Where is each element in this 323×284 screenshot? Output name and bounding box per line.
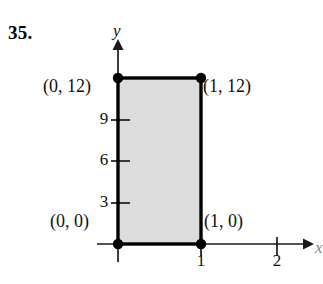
x-tick-label-2: 2: [269, 251, 285, 271]
y-tick-label-9: 9: [96, 109, 112, 129]
vertex-dot-1-0: [196, 239, 206, 249]
point-label-bottom-right: (1, 0): [204, 211, 243, 232]
y-tick-label-6: 6: [96, 150, 112, 170]
y-tick-label-3: 3: [96, 192, 112, 212]
coordinate-plot-graphic: [0, 0, 323, 284]
x-axis-arrowhead: [303, 239, 314, 250]
point-label-bottom-left: (0, 0): [50, 211, 89, 232]
point-label-top-left: (0, 12): [43, 76, 91, 97]
figure-canvas: 35. y x (0, 12) (1, 12) (0, 0) (1, 0) 9 …: [0, 0, 323, 284]
y-axis-label: y: [113, 21, 121, 41]
shaded-region: [118, 78, 201, 244]
x-tick-label-1: 1: [193, 251, 209, 271]
x-axis-label: x: [315, 238, 323, 258]
vertex-dot-0-0: [113, 239, 123, 249]
point-label-top-right: (1, 12): [203, 76, 251, 97]
vertex-dot-0-12: [113, 73, 123, 83]
